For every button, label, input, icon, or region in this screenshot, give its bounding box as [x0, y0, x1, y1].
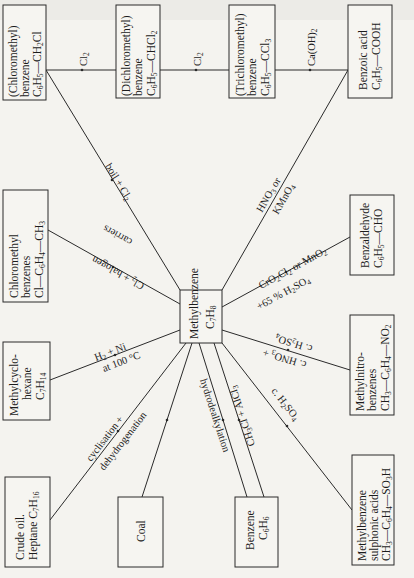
chloromethylbenzenes-box: Chloromethyl benzenes Cl—C6H4—CH3 — [3, 190, 48, 302]
arrow-icon — [287, 349, 290, 352]
reaction-diagram: Methylbenzene C7H8 (Chloromethyl) benzen… — [0, 0, 414, 578]
methylcyclohexane-box: Methylcyclo- hexane C7H14 — [3, 342, 50, 420]
box-label: Methylcyclo- — [8, 354, 21, 416]
reagent-hydrodealkylation: hydrodealkylation — [198, 377, 232, 454]
coal-box: Coal — [118, 497, 163, 567]
crude-oil-box: Crude oil. Heptane C7H16 — [5, 477, 50, 567]
arrow-icon — [195, 69, 198, 72]
trichloromethyl-benzene-box: (Trichloromethyl) benzene C6H5—CCl3 — [229, 5, 275, 98]
box-formula: CH3—C6H4—SO3H — [380, 468, 394, 561]
arrowheads — [81, 69, 312, 433]
box-label: hexane — [21, 367, 33, 400]
arrow-icon — [166, 419, 169, 422]
box-label: Benzaldehyde — [359, 203, 372, 268]
methylbenzene-box: Methylbenzene C7H8 — [180, 268, 222, 343]
reagent-c-h2so4-sulphonation: c. H2SO4 — [268, 385, 302, 423]
box-formula: Cl—C6H4—CH3 — [33, 221, 47, 298]
box-label: benzene — [132, 58, 144, 96]
box-label: benzenes — [366, 368, 378, 411]
dichloromethyl-benzene-box: (Dichloromethyl) benzene C6H5—CHCl2 — [116, 5, 160, 98]
methylbenzene-name: Methylbenzene — [188, 268, 201, 339]
box-label: benzene — [19, 59, 31, 97]
chloromethyl-benzene-box: (Chloromethyl) benzene C6H5—CH2Cl — [3, 5, 46, 100]
box-label: Benzene — [244, 510, 256, 550]
reagent-ch3cl-alcl3: CH3Cl + AlCl3 — [227, 384, 259, 448]
reagent-caoh2: Ca(OH)2 — [306, 28, 319, 66]
box-label: Coal — [135, 520, 147, 542]
reagent-halogen-carriers: carriers — [101, 223, 134, 248]
benzaldehyde-box: Benzaldehyde C6H5—CHO — [350, 195, 394, 275]
reagent-cl2-halogen: Cl2 + halogen — [89, 252, 147, 292]
box-label: benzenes — [20, 255, 32, 298]
box-label: benzene — [246, 58, 258, 96]
arrow-icon — [286, 425, 289, 428]
reagent-cl2: Cl2 — [192, 52, 205, 66]
benzene-box: Benzene C6H6 — [235, 497, 278, 567]
methylnitrobenzenes-box: Methylnitro- benzenes CH3—C6H4—NO2 — [350, 315, 394, 415]
box-label: Crude oil. — [14, 514, 26, 560]
reagent-cl2: Cl2 — [78, 52, 91, 66]
box-label: Heptane C7H16 — [27, 491, 41, 560]
arrow-icon — [81, 69, 84, 72]
box-label: Benzoic acid — [357, 30, 369, 90]
reagent-boil-cl2: boil + Cl2 — [102, 161, 135, 203]
box-formula: CH3—C6H4—NO2 — [379, 324, 393, 411]
reagent-c-h2so4: c. H2SO4 — [273, 331, 314, 355]
methylbenzene-sulphonic-acids-box: Methylbenzene sulphonic acids CH3—C6H4—S… — [352, 455, 394, 565]
arrow-icon — [309, 69, 312, 72]
benzoic-acid-box: Benzoic acid C6H5—COOH — [348, 5, 392, 98]
